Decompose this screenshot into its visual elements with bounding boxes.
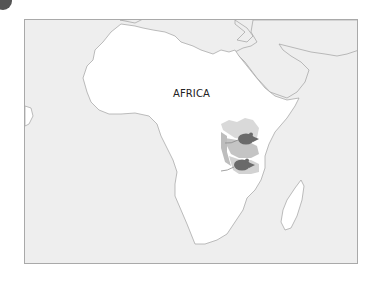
map-figure: AFRICA (0, 0, 377, 296)
west-coast-landmass (25, 106, 33, 126)
africa-map (25, 20, 358, 264)
madagascar (281, 180, 304, 230)
corner-circle-icon (0, 0, 12, 10)
continent-label: AFRICA (173, 88, 210, 99)
map-frame: AFRICA (24, 19, 358, 264)
